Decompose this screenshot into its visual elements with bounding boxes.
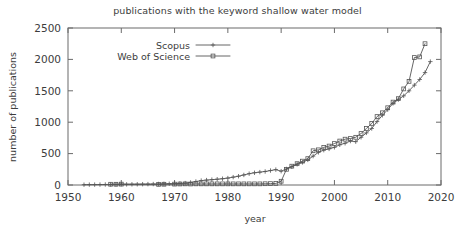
chart-legend: ScopusWeb of Science (117, 40, 230, 62)
legend-label-1: Scopus (156, 40, 190, 51)
x-tick-label: 2020 (428, 191, 455, 203)
x-tick-label: 1980 (214, 191, 241, 203)
x-axis-label: year (244, 213, 265, 224)
y-tick-label: 500 (41, 147, 61, 159)
series-line-1 (84, 62, 430, 185)
x-tick-label: 1960 (108, 191, 135, 203)
series-line-2 (111, 44, 425, 185)
chart-plot-area: 05001000150020002500 1950196019701980199… (0, 0, 475, 230)
y-tick-label: 2500 (34, 22, 61, 34)
x-tick-label: 1990 (268, 191, 295, 203)
y-axis-ticks: 05001000150020002500 (34, 22, 441, 191)
y-tick-label: 1500 (34, 85, 61, 97)
y-tick-label: 1000 (34, 116, 61, 128)
series-1 (82, 59, 433, 186)
y-tick-label: 2000 (34, 53, 61, 65)
y-axis-label: number of publications (7, 52, 18, 162)
legend-label-2: Web of Science (117, 51, 190, 62)
x-tick-label: 2010 (374, 191, 401, 203)
series-2 (109, 42, 427, 186)
data-series-group (82, 42, 433, 187)
x-tick-label: 1970 (161, 191, 188, 203)
x-tick-label: 1950 (55, 191, 82, 203)
chart-figure: publications with the keyword shallow wa… (0, 0, 475, 230)
y-tick-label: 0 (54, 179, 61, 191)
x-tick-label: 2000 (321, 191, 348, 203)
x-axis-ticks: 19501960197019801990200020102020 (55, 28, 455, 203)
